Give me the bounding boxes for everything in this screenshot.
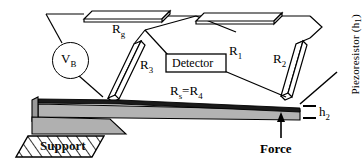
piezoresistor-leader-line xyxy=(300,72,337,104)
label-force: Force xyxy=(260,142,292,155)
resistor-rg-bar xyxy=(84,11,170,22)
h2-tick-marks xyxy=(303,106,316,118)
wire-detector-left-lead xyxy=(145,30,168,55)
label-r2: R2 xyxy=(273,52,286,68)
label-detector: Detector xyxy=(172,57,213,69)
support-pedestal xyxy=(32,117,126,134)
resistor-r1-bar xyxy=(196,13,282,24)
label-piezoresistor: Piezoresistor (h1) xyxy=(349,14,362,95)
label-vb: VB xyxy=(61,52,76,68)
wire-right-vertex xyxy=(310,16,322,38)
label-r1: R1 xyxy=(229,44,242,60)
label-r3: R3 xyxy=(140,58,153,74)
label-support: Support xyxy=(40,139,86,152)
label-rg: Rg xyxy=(112,22,125,38)
figure-canvas: Rg R1 R2 R3 Rs=R4 VB Detector Support Fo… xyxy=(0,0,362,165)
label-rs-r4: Rs=R4 xyxy=(170,84,203,100)
resistor-r2-bar xyxy=(281,41,307,100)
wire-vb-to-rg xyxy=(46,14,62,43)
label-h2: h2 xyxy=(319,105,330,121)
wire-detector-right-lead xyxy=(222,70,286,97)
